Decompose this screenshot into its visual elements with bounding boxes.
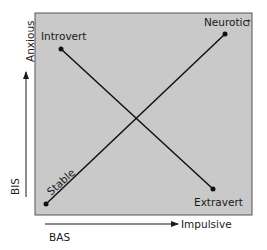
neurotic-arrow-icon: ↑	[245, 18, 253, 28]
introvert-label: Introvert	[41, 30, 87, 42]
y-axis-low-label: BIS	[9, 178, 21, 195]
extravert-point	[211, 187, 216, 192]
y-axis-high-label: Anxious	[24, 20, 36, 62]
x-axis-low-label: BAS	[49, 231, 70, 243]
personality-diagram: Anxious BIS Impulsive BAS Introvert Neur…	[0, 0, 267, 250]
extravert-label: Extravert	[194, 196, 243, 208]
x-axis-high-label: Impulsive	[181, 218, 232, 230]
neurotic-label: Neurotic	[204, 16, 249, 28]
plot-area	[35, 13, 252, 215]
stable-point	[44, 202, 49, 207]
introvert-point	[59, 47, 64, 52]
neurotic-point	[223, 32, 228, 37]
